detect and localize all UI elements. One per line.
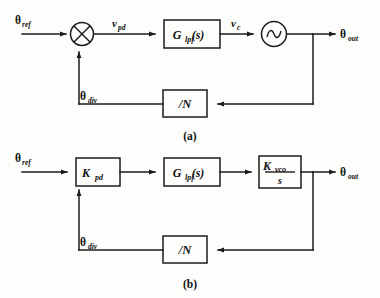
divider-label-a: /N: [178, 97, 192, 111]
loop-filter-suffix-b: (s): [192, 166, 205, 180]
feedback-label-a: θ: [80, 90, 86, 102]
block-diagram-svg: θ ref v pd v c θ out θ div G lpf (s) /N …: [0, 0, 380, 298]
signal-vc-sub: c: [237, 23, 241, 32]
output-label-sub-a: out: [348, 34, 359, 43]
kpd-sub: pd: [94, 173, 104, 182]
loop-filter-label-b: G: [173, 166, 182, 180]
output-label-b: θ: [340, 166, 346, 178]
input-label-sub-a: ref: [22, 20, 32, 29]
input-label-a: θ: [15, 14, 21, 26]
vco-block-a[interactable]: [262, 22, 287, 47]
vco-gain-denominator: s: [277, 175, 282, 186]
signal-vpd-label: v: [112, 17, 117, 29]
caption-a: (a): [183, 130, 197, 143]
vco-gain-numerator-sub: vco: [275, 165, 286, 174]
divider-label-b: /N: [178, 243, 192, 257]
input-label-b: θ: [15, 152, 21, 164]
mixer-block-a[interactable]: [71, 23, 94, 46]
caption-b: (b): [183, 278, 197, 291]
kpd-label: K: [81, 166, 91, 180]
output-label-a: θ: [340, 28, 346, 40]
loop-filter-suffix-a: (s): [192, 28, 205, 42]
output-label-sub-b: out: [348, 172, 359, 181]
feedback-label-sub-a: div: [88, 96, 98, 105]
input-label-sub-b: ref: [22, 158, 32, 167]
vco-gain-numerator: K: [262, 159, 272, 173]
loop-filter-label-a: G: [173, 28, 182, 42]
signal-vc-label: v: [231, 17, 236, 29]
feedback-label-b: θ: [80, 236, 86, 248]
figure-container: θ ref v pd v c θ out θ div G lpf (s) /N …: [0, 0, 380, 298]
signal-vpd-sub: pd: [117, 23, 126, 32]
feedback-label-sub-b: div: [88, 242, 98, 251]
